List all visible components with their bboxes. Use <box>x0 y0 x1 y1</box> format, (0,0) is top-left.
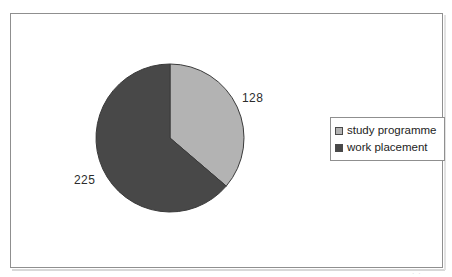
frame-shadow-bottom <box>12 269 445 271</box>
legend-label-study-programme: study programme <box>347 125 436 137</box>
chart-screenshot: 128 225 study programme work placement ·… <box>0 0 452 277</box>
pie-chart <box>90 58 250 218</box>
legend-label-work-placement: work placement <box>347 142 428 154</box>
value-label-work-placement: 225 <box>74 173 95 187</box>
legend: study programme work placement <box>330 117 445 161</box>
pie-slices <box>96 64 244 212</box>
legend-swatch-icon-study-programme <box>335 127 343 135</box>
scan-artifact: · · <box>412 270 442 276</box>
value-label-study-programme: 128 <box>242 91 263 105</box>
legend-item-study-programme: study programme <box>335 122 440 139</box>
legend-item-work-placement: work placement <box>335 139 440 156</box>
legend-swatch-icon-work-placement <box>335 144 343 152</box>
